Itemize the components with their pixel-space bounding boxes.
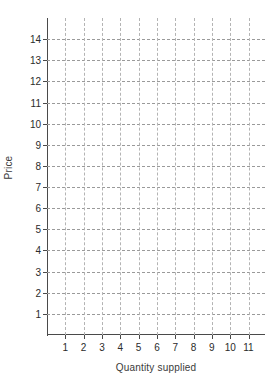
y-axis-tick xyxy=(43,60,47,61)
y-axis-tick-label: 10 xyxy=(30,118,41,129)
x-axis-tick-label: 5 xyxy=(136,342,142,353)
chart-canvas: Price 12345678910111213141234567891011 Q… xyxy=(0,0,280,388)
y-axis-tick xyxy=(43,81,47,82)
x-axis-tick xyxy=(65,335,66,339)
y-axis-tick-label: 13 xyxy=(30,55,41,66)
plot-area: 12345678910111213141234567891011 xyxy=(47,18,265,335)
gridline-vertical xyxy=(102,18,103,335)
x-axis-tick-label: 6 xyxy=(154,342,160,353)
y-axis-tick-label: 11 xyxy=(31,97,41,108)
y-axis-tick-label: 2 xyxy=(35,287,41,298)
y-axis-tick-label: 4 xyxy=(35,245,41,256)
x-axis-tick-label: 4 xyxy=(117,342,123,353)
y-axis-tick xyxy=(43,250,47,251)
gridline-vertical xyxy=(84,18,85,335)
x-axis-tick xyxy=(157,335,158,339)
x-axis-tick-label: 1 xyxy=(63,342,69,353)
gridline-vertical xyxy=(65,18,66,335)
y-axis-tick xyxy=(43,314,47,315)
y-axis-tick xyxy=(43,272,47,273)
x-axis-tick-label: 10 xyxy=(225,342,236,353)
x-axis-tick-label: 8 xyxy=(191,342,197,353)
x-axis-tick xyxy=(139,335,140,339)
y-axis-tick xyxy=(43,187,47,188)
x-axis-tick xyxy=(84,335,85,339)
gridline-vertical xyxy=(194,18,195,335)
x-axis-tick-label: 11 xyxy=(243,342,253,353)
y-axis-tick-label: 5 xyxy=(35,224,41,235)
gridline-vertical xyxy=(249,18,250,335)
x-axis-tick xyxy=(175,335,176,339)
x-axis-tick-label: 2 xyxy=(81,342,87,353)
y-axis-tick-label: 7 xyxy=(35,182,41,193)
gridline-vertical xyxy=(230,18,231,335)
y-axis-tick-label: 6 xyxy=(35,203,41,214)
x-axis-tick xyxy=(230,335,231,339)
x-axis-tick xyxy=(249,335,250,339)
x-axis-tick xyxy=(120,335,121,339)
x-axis-tick-label: 3 xyxy=(99,342,105,353)
y-axis-tick xyxy=(43,145,47,146)
x-axis-tick-label: 9 xyxy=(209,342,215,353)
y-axis-tick-label: 9 xyxy=(35,139,41,150)
y-axis-tick xyxy=(43,293,47,294)
x-axis-tick xyxy=(194,335,195,339)
y-axis-tick xyxy=(43,208,47,209)
y-axis-tick xyxy=(43,229,47,230)
gridline-vertical xyxy=(212,18,213,335)
y-axis-tick-label: 1 xyxy=(35,308,41,319)
gridline-vertical xyxy=(120,18,121,335)
y-axis-tick xyxy=(43,39,47,40)
y-axis-tick xyxy=(43,124,47,125)
x-axis-title: Quantity supplied xyxy=(47,362,265,373)
y-axis-tick xyxy=(43,166,47,167)
y-axis-tick-label: 14 xyxy=(30,34,41,45)
y-axis-title: Price xyxy=(0,0,18,335)
x-axis-tick-label: 7 xyxy=(172,342,178,353)
gridline-vertical xyxy=(139,18,140,335)
y-axis-title-text: Price xyxy=(4,156,15,180)
y-axis-tick-label: 3 xyxy=(35,266,41,277)
gridline-vertical xyxy=(175,18,176,335)
y-axis-tick xyxy=(43,103,47,104)
gridline-vertical xyxy=(157,18,158,335)
y-axis-tick-label: 8 xyxy=(35,160,41,171)
y-axis-tick-label: 12 xyxy=(30,76,41,87)
x-axis-tick xyxy=(102,335,103,339)
x-axis-tick xyxy=(212,335,213,339)
